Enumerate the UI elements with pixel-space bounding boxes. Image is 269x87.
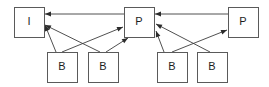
- arrowhead-icon: [156, 24, 162, 29]
- node-box[interactable]: [198, 53, 228, 83]
- edge-line: [172, 30, 227, 52]
- node-box[interactable]: [15, 8, 45, 38]
- node-box[interactable]: [48, 53, 78, 83]
- node-box[interactable]: [229, 8, 259, 38]
- arrowhead-icon: [122, 38, 128, 43]
- node-b3[interactable]: B: [158, 53, 188, 83]
- node-b2[interactable]: B: [89, 53, 119, 83]
- node-i1[interactable]: I: [15, 8, 45, 38]
- node-p1[interactable]: P: [125, 8, 155, 38]
- diagram-svg: IPPBBBB: [0, 0, 269, 87]
- arrowhead-icon: [156, 31, 160, 37]
- edge-B3-to-P2: [172, 30, 227, 52]
- nodes-layer: IPPBBBB: [15, 8, 259, 83]
- diagram-canvas: IPPBBBB: [0, 0, 269, 87]
- edge-B2-to-P1: [106, 38, 128, 52]
- node-p2[interactable]: P: [229, 8, 259, 38]
- edge-B1-to-I1: [45, 25, 56, 52]
- node-box[interactable]: [158, 53, 188, 83]
- arrowhead-icon: [45, 12, 51, 17]
- node-box[interactable]: [125, 8, 155, 38]
- node-b1[interactable]: B: [48, 53, 78, 83]
- arrowhead-icon: [155, 12, 161, 17]
- arrowhead-icon: [221, 30, 227, 34]
- edge-B3-to-P1: [156, 31, 164, 52]
- node-box[interactable]: [89, 53, 119, 83]
- arrowhead-icon: [117, 27, 123, 31]
- edge-P1-to-I1: [45, 12, 124, 17]
- edge-P2-to-P1: [155, 12, 228, 17]
- node-b4[interactable]: B: [198, 53, 228, 83]
